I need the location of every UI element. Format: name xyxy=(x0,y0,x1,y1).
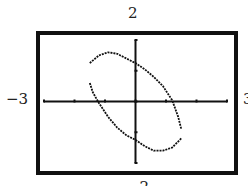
axes xyxy=(44,40,227,163)
plot-area xyxy=(0,0,248,186)
